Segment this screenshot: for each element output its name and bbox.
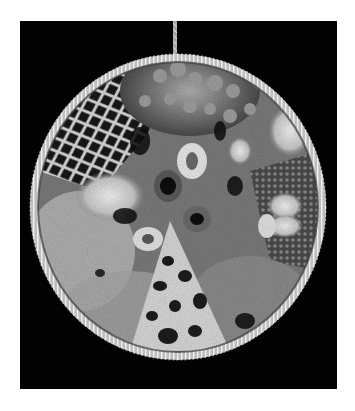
crochet-hoop-illustration [20, 21, 337, 389]
photograph: Crocheted circular wall hanging with lac… [20, 21, 337, 389]
